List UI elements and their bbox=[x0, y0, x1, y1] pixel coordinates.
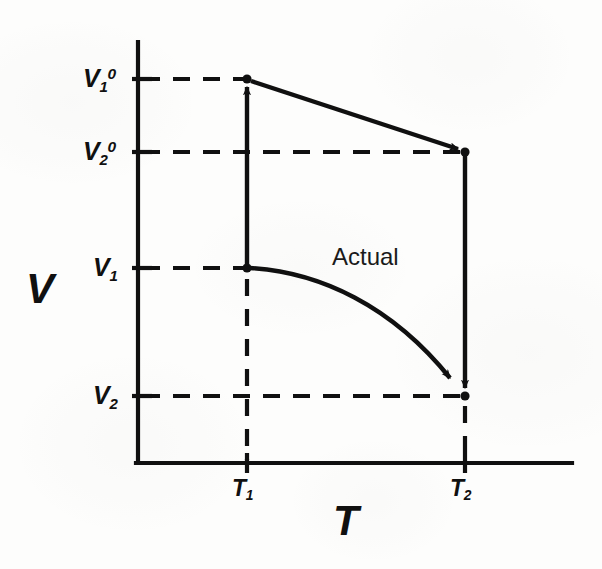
figure-canvas: V10 V20 V1 V2 T1 T2 V T Actual bbox=[0, 0, 602, 569]
x-tick-label-t1: T1 bbox=[232, 477, 253, 503]
point-v2-0-at-t2 bbox=[460, 147, 469, 156]
arrow-ideal-diagonal bbox=[251, 81, 458, 149]
y-tick-label-v2-0: V20 bbox=[83, 139, 116, 167]
x-tick-label-t2: T2 bbox=[450, 477, 471, 503]
process-path bbox=[247, 81, 465, 388]
y-tick-label-v1: V1 bbox=[93, 255, 117, 283]
point-v2-at-t2 bbox=[460, 391, 469, 400]
y-tick-label-v2: V2 bbox=[93, 383, 117, 411]
arrow-actual-curve bbox=[250, 268, 450, 378]
state-point-markers bbox=[242, 74, 469, 400]
y-axis-ticks bbox=[132, 79, 152, 396]
actual-curve-label: Actual bbox=[332, 245, 399, 269]
x-axis-title: T bbox=[333, 500, 359, 542]
actual-path bbox=[250, 268, 450, 378]
y-axis-title: V bbox=[26, 268, 54, 310]
point-v1-at-t1 bbox=[242, 263, 251, 272]
point-v1-0-at-t1 bbox=[242, 74, 251, 83]
y-tick-label-v1-0: V10 bbox=[83, 66, 116, 94]
